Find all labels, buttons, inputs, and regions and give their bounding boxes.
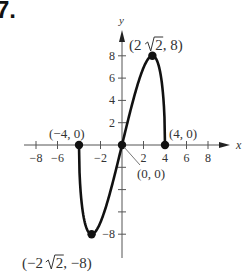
point-label-origin: (0, 0) xyxy=(137,166,165,181)
data-point xyxy=(161,141,169,149)
x-tick-label: 6 xyxy=(184,151,190,165)
data-point xyxy=(87,230,95,238)
y-axis-arrow-icon xyxy=(119,30,125,42)
x-tick-label: 8 xyxy=(205,151,211,165)
leader-line xyxy=(124,147,140,165)
x-tick-label: −8 xyxy=(30,151,43,165)
data-point xyxy=(75,141,83,149)
y-tick-label: 4 xyxy=(109,93,115,107)
y-axis-label: y xyxy=(118,14,124,26)
y-tick-label: 8 xyxy=(109,49,115,63)
svg-text:2, 8): 2, 8) xyxy=(155,37,183,54)
x-tick-label: −2 xyxy=(94,151,107,165)
svg-text:(−2: (−2 xyxy=(22,255,43,272)
y-tick-label: 6 xyxy=(109,71,115,85)
svg-text:2, −8): 2, −8) xyxy=(56,255,92,272)
x-tick-label: 4 xyxy=(162,151,168,165)
x-axis-label: x xyxy=(235,138,242,152)
x-axis-arrow-icon xyxy=(219,142,230,148)
point-label-neg4-0: (−4, 0) xyxy=(49,126,85,141)
point-label-4-0: (4, 0) xyxy=(169,126,197,141)
point-label-min: (−22, −8) xyxy=(22,255,92,272)
y-tick-label: −8 xyxy=(102,227,115,241)
point-label-max: (22, 8) xyxy=(129,37,183,54)
problem-number: 7. xyxy=(0,0,16,24)
svg-text:(2: (2 xyxy=(129,37,142,54)
x-tick-label: 2 xyxy=(141,151,147,165)
y-tick-label: 2 xyxy=(109,116,115,130)
x-tick-label: −6 xyxy=(51,151,64,165)
graph-figure: 7. xy −8−6−22468−82468 (−4, 0)(0, 0)(4, … xyxy=(0,0,248,274)
function-plot: xy −8−6−22468−82468 (−4, 0)(0, 0)(4, 0)(… xyxy=(0,0,248,274)
